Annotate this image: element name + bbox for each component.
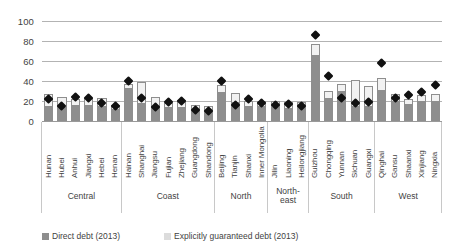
category-slot: Hunan — [42, 122, 55, 179]
category-slot: Guangxi — [362, 122, 375, 179]
bar-segment-direct[interactable] — [417, 102, 426, 121]
y-axis-tick-60: 60 — [0, 56, 34, 67]
bar-group-guangxi[interactable] — [362, 21, 375, 121]
bar-segment-direct[interactable] — [84, 106, 93, 121]
bar-group-heilongjiang[interactable] — [295, 21, 308, 121]
bar-group-xinjiang[interactable] — [415, 21, 428, 121]
bar-segment-direct[interactable] — [311, 56, 320, 121]
bar-group-qinghai[interactable] — [375, 21, 388, 121]
category-label-yunnan: Yunnan — [337, 151, 346, 178]
y-axis-tick-20: 20 — [0, 96, 34, 107]
bar-segment-guaranteed[interactable] — [311, 44, 320, 56]
category-slot: Tianjin — [229, 122, 242, 179]
bar-segment-direct[interactable] — [44, 107, 53, 121]
bar-group-jiangxi[interactable] — [82, 21, 95, 121]
bar-group-zhejiang[interactable] — [175, 21, 188, 121]
bar-segment-guaranteed[interactable] — [324, 91, 333, 99]
bar-segment-direct[interactable] — [164, 108, 173, 121]
bar-segment-direct[interactable] — [391, 102, 400, 121]
category-label-tianjin: Tianjin — [230, 155, 239, 178]
bar-group-tianjin[interactable] — [229, 21, 242, 121]
category-slot: Henan — [109, 122, 122, 179]
bar-group-shandong[interactable] — [202, 21, 215, 121]
bar-segment-guaranteed[interactable] — [377, 78, 386, 91]
category-slot: Hainan — [122, 122, 135, 179]
bar-segment-direct[interactable] — [364, 107, 373, 121]
chart-legend: Direct debt (2013)Explicitly guaranteed … — [42, 228, 442, 244]
legend-swatch-guaranteed-icon — [164, 233, 171, 240]
bar-group-jilin[interactable] — [269, 21, 282, 121]
legend-item-direct[interactable]: Direct debt (2013) — [42, 231, 120, 241]
category-label-qinghai: Qinghai — [377, 151, 386, 178]
category-slot: Jiangxi — [82, 122, 95, 179]
category-label-anhui: Anhui — [70, 158, 79, 178]
bar-group-chongqing[interactable] — [322, 21, 335, 121]
bar-segment-direct[interactable] — [124, 89, 133, 121]
bar-segment-direct[interactable] — [404, 105, 413, 121]
bar-segment-guaranteed[interactable] — [337, 84, 346, 92]
marker-diamond[interactable] — [430, 80, 440, 90]
bar-segment-direct[interactable] — [324, 99, 333, 121]
bar-group-henan[interactable] — [109, 21, 122, 121]
bar-segment-direct[interactable] — [97, 107, 106, 121]
marker-diamond[interactable] — [377, 58, 387, 68]
bar-segment-direct[interactable] — [244, 107, 253, 121]
bar-group-hebei[interactable] — [95, 21, 108, 121]
category-slot: Beijing — [215, 122, 228, 179]
group-label-west: West — [374, 179, 442, 213]
bar-group-shaanxi[interactable] — [402, 21, 415, 121]
bar-segment-direct[interactable] — [377, 91, 386, 121]
bar-segment-direct[interactable] — [137, 104, 146, 121]
bar-segment-direct[interactable] — [351, 107, 360, 121]
category-slot: Gansu — [389, 122, 402, 179]
bar-group-fujian[interactable] — [162, 21, 175, 121]
bar-group-shanxi[interactable] — [242, 21, 255, 121]
bar-group-inner-mongolia[interactable] — [255, 21, 268, 121]
category-slot: Zhejiang — [175, 122, 188, 179]
category-label-guangxi: Guangxi — [364, 149, 373, 178]
category-slot: Xinjiang — [415, 122, 428, 179]
category-label-fujian: Fujian — [164, 157, 173, 178]
bar-group-beijing[interactable] — [215, 21, 228, 121]
category-slot: Inner Mongolia — [255, 122, 268, 179]
bar-segment-direct[interactable] — [177, 108, 186, 121]
category-slot: Qinghai — [375, 122, 388, 179]
category-slot: Shanxi — [242, 122, 255, 179]
category-slot: Liaoning — [282, 122, 295, 179]
category-slot: Guangdong — [189, 122, 202, 179]
bar-segment-direct[interactable] — [431, 102, 440, 121]
bar-group-yunnan[interactable] — [335, 21, 348, 121]
legend-label: Direct debt (2013) — [52, 231, 120, 241]
bar-segment-direct[interactable] — [217, 93, 226, 121]
category-label-guizhou: Guizhou — [310, 149, 319, 178]
bar-segment-direct[interactable] — [284, 109, 293, 121]
bar-group-sichuan[interactable] — [349, 21, 362, 121]
bar-segment-guaranteed[interactable] — [217, 85, 226, 93]
bar-group-jiangsu[interactable] — [149, 21, 162, 121]
bar-group-liaoning[interactable] — [282, 21, 295, 121]
marker-diamond[interactable] — [324, 71, 334, 81]
bar-group-guangdong[interactable] — [189, 21, 202, 121]
bar-group-hainan[interactable] — [122, 21, 135, 121]
group-label-north: North — [214, 179, 269, 213]
bar-segment-direct[interactable] — [71, 106, 80, 121]
y-axis-tick-100: 100 — [0, 16, 34, 27]
legend-item-guaranteed[interactable]: Explicitly guaranteed debt (2013) — [164, 231, 298, 241]
x-axis-category-labels: HunanHubeiAnhuiJiangxiHebeiHenanHainanSh… — [42, 122, 442, 179]
bar-group-guizhou[interactable] — [309, 21, 322, 121]
bar-segment-direct[interactable] — [257, 107, 266, 121]
bar-segment-guaranteed[interactable] — [431, 94, 440, 102]
bar-group-ningxia[interactable] — [429, 21, 442, 121]
category-slot: Jiangsu — [149, 122, 162, 179]
category-slot: Heilongjiang — [295, 122, 308, 179]
category-label-gansu: Gansu — [390, 155, 399, 178]
bar-segment-direct[interactable] — [111, 110, 120, 121]
category-label-inner-mongolia: Inner Mongolia — [257, 126, 266, 178]
bar-group-hunan[interactable] — [42, 21, 55, 121]
marker-diamond[interactable] — [310, 30, 320, 40]
bar-group-gansu[interactable] — [389, 21, 402, 121]
bar-group-anhui[interactable] — [69, 21, 82, 121]
bar-group-hubei[interactable] — [55, 21, 68, 121]
bar-group-shanghai[interactable] — [135, 21, 148, 121]
category-label-beijing: Beijing — [217, 155, 226, 178]
